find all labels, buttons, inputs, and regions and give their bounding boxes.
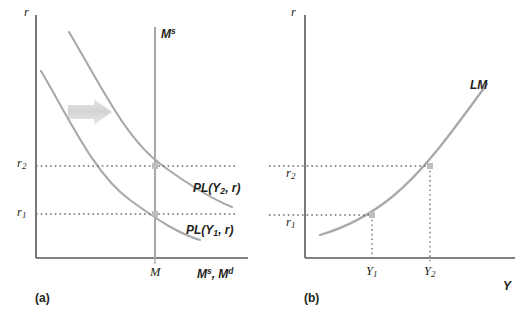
money-supply-label-sup: s bbox=[171, 26, 176, 36]
money-supply-label: Ms bbox=[161, 27, 176, 40]
panel-b-y-tick-r2: r2 bbox=[286, 167, 295, 181]
panel-b-y-tick-r1: r1 bbox=[286, 216, 295, 230]
figure-money-market-and-lm-curve: r Ms r2 r1 PL(Y2, r) PL(Y1, r) M Ms, Md … bbox=[0, 0, 529, 319]
panel-b-x-axis-label: Y bbox=[503, 280, 511, 292]
money-demand-label-y2-tail: , r) bbox=[225, 181, 240, 195]
panel-a-y-axis-label: r bbox=[24, 6, 29, 19]
panel-a-x-tick-label-m: M bbox=[150, 266, 160, 279]
panel-a-caption: (a) bbox=[35, 291, 50, 305]
panel-b-graphics bbox=[269, 15, 515, 262]
money-demand-label-y2-prefix: PL( bbox=[193, 181, 212, 195]
panel-b-x-tick-y2: Y2 bbox=[424, 265, 435, 279]
panel-a-x-axis-label-sup2: d bbox=[228, 266, 233, 276]
figure-canvas bbox=[0, 0, 529, 319]
panel-b-y-tick-r1-sub: 1 bbox=[291, 220, 296, 230]
panel-a-x-axis-label-base2: M bbox=[218, 267, 228, 281]
money-supply-label-base: M bbox=[161, 27, 171, 41]
panel-b-y-tick-r2-sub: 2 bbox=[291, 171, 296, 181]
panel-a-equilibrium-point-1 bbox=[152, 211, 158, 217]
panel-b-x-tick-y1: Y1 bbox=[366, 265, 377, 279]
panel-a-y-tick-r2: r2 bbox=[17, 157, 26, 171]
panel-b-x-tick-y2-sub: 2 bbox=[431, 269, 436, 279]
money-demand-label-y2: PL(Y2, r) bbox=[193, 182, 241, 196]
money-demand-label-y1-tail: , r) bbox=[218, 223, 233, 237]
panel-b-x-tick-y2-base: Y bbox=[424, 264, 431, 278]
panel-a-y-tick-r2-sub: 2 bbox=[22, 161, 27, 171]
money-demand-label-y1: PL(Y1, r) bbox=[186, 224, 234, 238]
money-demand-label-y1-prefix: PL( bbox=[186, 223, 205, 237]
panel-b-caption: (b) bbox=[304, 291, 319, 305]
lm-curve bbox=[320, 84, 487, 235]
shift-arrow bbox=[68, 99, 112, 125]
panel-a-equilibrium-point-2 bbox=[152, 163, 158, 169]
panel-b-x-tick-y1-sub: 1 bbox=[373, 269, 378, 279]
panel-a-x-axis-label: Ms, Md bbox=[197, 267, 233, 280]
panel-a-x-axis-label-base1: M bbox=[197, 267, 207, 281]
panel-a-y-tick-r1: r1 bbox=[17, 206, 26, 220]
panel-a-y-tick-r1-sub: 1 bbox=[22, 210, 27, 220]
panel-b-equilibrium-point-1 bbox=[369, 212, 375, 218]
panel-b-x-tick-y1-base: Y bbox=[366, 264, 373, 278]
lm-curve-label: LM bbox=[470, 79, 487, 91]
panel-b-equilibrium-point-2 bbox=[427, 163, 433, 169]
panel-b-y-axis-label: r bbox=[291, 6, 296, 19]
